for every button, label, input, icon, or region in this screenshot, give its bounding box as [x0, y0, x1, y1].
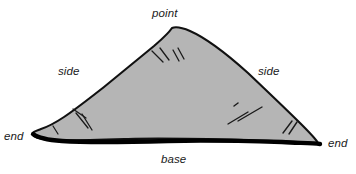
figure-container: point side side end end base: [0, 0, 356, 174]
label-end-left: end: [4, 131, 24, 143]
label-base: base: [161, 154, 186, 166]
label-side-left: side: [58, 66, 80, 78]
label-side-right: side: [258, 66, 280, 78]
stone-tool-illustration: [0, 0, 356, 174]
tool-body-shape: [33, 27, 318, 143]
label-point: point: [152, 8, 177, 20]
label-end-right: end: [328, 138, 348, 150]
tool-body-group: [33, 27, 318, 143]
